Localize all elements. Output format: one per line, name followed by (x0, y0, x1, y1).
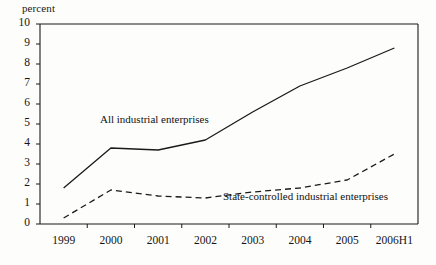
y-axis-tick-label: 0 (8, 216, 30, 228)
y-axis-tick-label: 8 (8, 56, 30, 68)
series-annotation-0: All industrial enterprises (100, 113, 209, 125)
y-axis-tick-label: 7 (8, 76, 30, 88)
x-axis-ticks (87, 224, 371, 228)
y-axis-tick-label: 4 (8, 136, 30, 148)
y-axis-tick-label: 3 (8, 156, 30, 168)
series-line-1 (64, 154, 395, 218)
chart-container: percent 109876543210 1999200020012002200… (0, 0, 436, 265)
y-axis-ticks (36, 24, 40, 224)
y-axis-tick-label: 6 (8, 96, 30, 108)
y-axis-tick-label: 9 (8, 36, 30, 48)
y-axis-tick-label: 10 (8, 16, 30, 28)
y-axis-tick-label: 5 (8, 116, 30, 128)
y-axis-tick-label: 1 (8, 196, 30, 208)
y-axis-tick-label: 2 (8, 176, 30, 188)
series-annotation-1: State-controlled industrial enterprises (223, 190, 388, 202)
x-axis-tick-label: 2006H1 (364, 234, 424, 246)
chart-plot-area (0, 0, 436, 265)
